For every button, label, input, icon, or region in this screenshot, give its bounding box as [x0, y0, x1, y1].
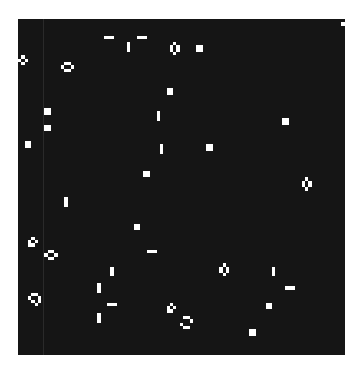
live-cell[interactable] — [176, 49, 179, 52]
live-cell[interactable] — [157, 118, 160, 121]
live-cell[interactable] — [48, 128, 51, 131]
live-cell[interactable] — [160, 151, 163, 154]
live-cell[interactable] — [272, 273, 275, 276]
live-cell[interactable] — [170, 92, 173, 95]
live-cell[interactable] — [110, 36, 113, 39]
live-cell[interactable] — [345, 22, 348, 25]
live-cell[interactable] — [170, 309, 173, 312]
live-cell[interactable] — [54, 253, 57, 256]
grid-divider — [43, 19, 44, 355]
live-cell[interactable] — [190, 319, 193, 322]
live-cell[interactable] — [38, 300, 41, 303]
live-cell[interactable] — [28, 144, 31, 147]
live-cell[interactable] — [114, 303, 117, 306]
live-cell[interactable] — [48, 111, 51, 114]
live-cell[interactable] — [127, 49, 130, 52]
live-cell[interactable] — [97, 319, 100, 322]
live-cell[interactable] — [173, 306, 176, 309]
live-cell[interactable] — [21, 62, 24, 65]
live-cell[interactable] — [226, 270, 229, 273]
live-cell[interactable] — [25, 59, 28, 62]
game-board[interactable] — [18, 19, 345, 355]
live-cell[interactable] — [64, 204, 67, 207]
live-cell[interactable] — [209, 148, 212, 151]
live-cell[interactable] — [285, 121, 288, 124]
live-cell[interactable] — [31, 243, 34, 246]
live-cell[interactable] — [143, 36, 146, 39]
live-cell[interactable] — [292, 286, 295, 289]
live-cell[interactable] — [308, 184, 311, 187]
live-cell[interactable] — [223, 273, 226, 276]
live-cell[interactable] — [35, 303, 38, 306]
live-cell[interactable] — [173, 52, 176, 55]
live-cell[interactable] — [147, 174, 150, 177]
live-cell[interactable] — [68, 69, 71, 72]
live-cell[interactable] — [252, 333, 255, 336]
live-cell[interactable] — [137, 227, 140, 230]
live-cell[interactable] — [35, 240, 38, 243]
live-cell[interactable] — [200, 49, 203, 52]
live-cell[interactable] — [305, 187, 308, 190]
live-cell[interactable] — [97, 290, 100, 293]
live-cell[interactable] — [71, 65, 74, 68]
live-cell[interactable] — [51, 257, 54, 260]
live-cell[interactable] — [186, 326, 189, 329]
live-cell[interactable] — [110, 273, 113, 276]
live-cell[interactable] — [153, 250, 156, 253]
live-cell[interactable] — [269, 306, 272, 309]
